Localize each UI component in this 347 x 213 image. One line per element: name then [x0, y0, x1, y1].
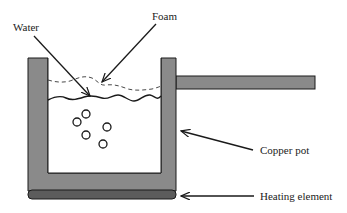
bubble	[82, 110, 90, 118]
bubble	[99, 140, 107, 148]
boiling-pot-diagram: Water Foam Copper pot Heating element	[0, 0, 347, 213]
bubble	[103, 123, 111, 131]
heating-element	[28, 190, 176, 199]
pot-handle	[176, 76, 315, 89]
label-heating-element: Heating element	[260, 190, 332, 202]
pot-interior	[48, 58, 161, 173]
copper-pot-arrow	[181, 131, 253, 150]
bubble	[82, 131, 90, 139]
label-foam: Foam	[152, 10, 178, 22]
bubble	[73, 118, 81, 126]
label-water: Water	[13, 21, 39, 33]
label-copper-pot: Copper pot	[260, 144, 309, 156]
